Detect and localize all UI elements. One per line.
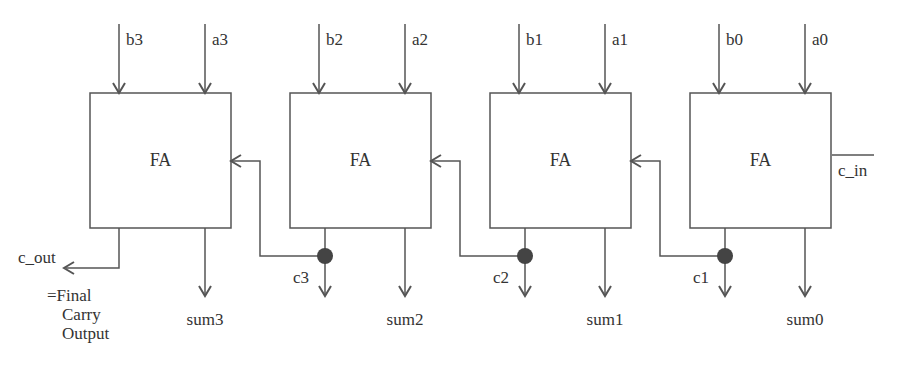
input-a-label: a2 [412,30,428,49]
carry-out-note-line2: Carry [62,305,101,324]
junction-dot [517,248,533,264]
carry-label: c1 [693,268,709,287]
full-adder-label: FA [350,150,372,170]
input-b-label: b1 [526,30,543,49]
junction-dot [717,248,733,264]
sum-label: sum1 [587,310,624,329]
input-b-label: b0 [726,30,743,49]
full-adder-fa2: FAb2a2sum2c3 [231,24,431,329]
full-adder-label: FA [550,150,572,170]
ripple-carry-adder-diagram: FAb3a3sum3FAb2a2sum2c3FAb1a1sum1c2FAb0a0… [0,0,900,367]
input-a-label: a0 [812,30,828,49]
carry-out-note-line3: Output [62,324,110,343]
sum-label: sum0 [787,310,824,329]
full-adder-label: FA [150,150,172,170]
junction-dot [317,248,333,264]
input-b-label: b2 [326,30,343,49]
full-adder-fa0: FAb0a0sum0c1 [631,24,831,329]
full-adder-label: FA [750,150,772,170]
carry-out-note-line1: =Final [47,286,92,305]
carry-label: c3 [293,268,309,287]
carry-out-label: c_out [18,248,56,267]
full-adder-fa1: FAb1a1sum1c2 [431,24,631,329]
input-a-label: a3 [212,30,228,49]
input-b-label: b3 [126,30,143,49]
carry-in-label: c_in [838,161,868,180]
input-a-label: a1 [612,30,628,49]
carry-label: c2 [493,268,509,287]
sum-label: sum3 [187,310,224,329]
full-adder-fa3: FAb3a3sum3 [90,24,231,329]
sum-label: sum2 [387,310,424,329]
